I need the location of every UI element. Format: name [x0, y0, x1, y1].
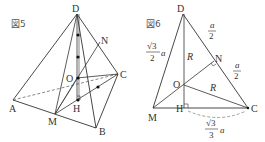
tick-dot: [76, 33, 79, 36]
label-R-OD: R: [186, 51, 193, 62]
length-DM: √3 2 a: [146, 41, 166, 63]
right-angle-mark-H: [184, 104, 188, 108]
label-C: C: [251, 103, 258, 114]
label-B: B: [99, 126, 106, 137]
label-M: M: [148, 112, 157, 123]
label-D: D: [177, 3, 184, 14]
label-D: D: [72, 3, 79, 14]
line-MN: [153, 61, 214, 108]
label-C: C: [120, 69, 127, 80]
label-N: N: [101, 35, 108, 46]
HC-denominator: 3: [209, 130, 214, 140]
figure-6-caption: 図6: [146, 19, 161, 29]
line-MC: [55, 74, 118, 114]
label-M: M: [48, 116, 57, 127]
DM-numerator: √3: [147, 41, 157, 51]
tick-dot: [96, 85, 99, 88]
figure-5-caption: 図5: [11, 19, 26, 29]
length-DN: a 2: [208, 20, 216, 41]
label-H: H: [176, 103, 183, 114]
point-O-dot: [76, 76, 79, 79]
label-O: O: [66, 73, 73, 84]
label-A: A: [9, 103, 17, 114]
label-N: N: [215, 53, 222, 64]
label-R-OC: R: [209, 82, 216, 93]
figure-5: 図5 D N O C A H M B: [9, 3, 127, 137]
edge-BC: [96, 74, 118, 128]
length-NC: a 2: [233, 60, 241, 81]
tick-dot: [76, 55, 79, 58]
NC-denominator: 2: [234, 71, 239, 81]
length-HC: √3 3 a: [205, 118, 225, 140]
HC-variable: a: [220, 125, 225, 135]
figure-6: 図6 D N O H C M R R √3 2 a: [146, 3, 258, 140]
DM-variable: a: [161, 48, 166, 58]
DM-denominator: 2: [150, 53, 155, 63]
NC-numerator: a: [235, 60, 240, 70]
point-C-dot: [247, 107, 249, 109]
DN-denominator: 2: [209, 31, 214, 41]
HC-numerator: √3: [206, 118, 216, 128]
edge-DC: [77, 14, 118, 74]
line-OC: [77, 74, 118, 78]
dimension-arc-HC: [188, 111, 246, 118]
label-O: O: [173, 79, 180, 90]
point-H-dot: [76, 98, 79, 101]
label-H: H: [73, 103, 80, 114]
DN-numerator: a: [210, 20, 215, 30]
diagram-canvas: 図5 D N O C A H M B 図6: [0, 0, 265, 142]
